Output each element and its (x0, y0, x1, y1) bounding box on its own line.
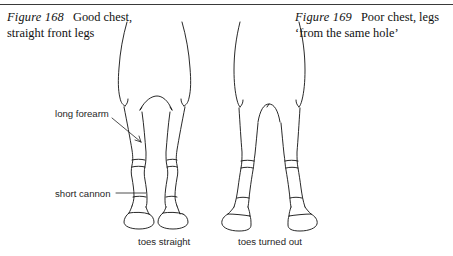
fig169-right-leg-inner-edge (281, 123, 291, 207)
fig168-left-elbow-notch (125, 99, 128, 106)
fig168-right-leg-outer-edge (175, 107, 185, 206)
fig168-right-knee-mark-a (167, 159, 177, 160)
fig169-left-pastern-outer (228, 207, 234, 214)
fig168-right-hoof-wall (158, 213, 188, 229)
fig168-left-hoof-wall (124, 213, 154, 229)
fig169-chest-underline (258, 104, 280, 122)
fig168-chest-underline (140, 96, 172, 110)
fig169-left-elbow-notch (240, 100, 243, 107)
fig169-right-leg-outer-edge (297, 108, 305, 207)
fig168-left-knee-mark-a (132, 159, 145, 160)
fig169-right-elbow-notch (296, 100, 299, 107)
fig168-right-fetlock-mark (166, 196, 177, 197)
fig168-right-elbow-notch (181, 99, 184, 106)
annotation-leader-lines (112, 118, 146, 193)
figure-plate: Figure 168Good chest, straight front leg… (0, 0, 453, 256)
fig169-right-knee-mark-b (286, 167, 298, 168)
fig168-right-shoulder-outline (182, 22, 191, 106)
fig169-left-hoof-wall (222, 214, 251, 231)
horse-forelegs-illustrations (0, 0, 453, 256)
fig168-left-leg-outer-edge (124, 107, 134, 206)
fig169-left-knee-mark-b (241, 167, 253, 168)
fig169-left-hoof-coronet-band (228, 214, 250, 216)
fig169-left-leg-inner-edge (248, 123, 258, 207)
fig169-right-hoof-wall (288, 214, 317, 231)
fig169-left-pastern-inner (248, 207, 250, 216)
fig169-right-fetlock-mark (290, 197, 302, 198)
fig168-left-fetlock-mark (133, 196, 146, 197)
fig169-right-pastern-inner (289, 207, 291, 216)
fig169-left-leg-outer-edge (234, 108, 242, 207)
fig168-right-pastern-line-inner (163, 207, 166, 213)
fig168-left-knee-mark-b (132, 166, 145, 167)
fig168-right-knee-mark-b (167, 166, 177, 167)
fig168-left-pastern-line-outer (129, 206, 132, 213)
fig169-right-knee-mark-a (285, 160, 298, 161)
fig169-left-shoulder-outline (234, 22, 240, 107)
fig169-left-fetlock-mark (237, 197, 249, 198)
fig169-left-knee-mark-a (241, 160, 254, 161)
fig169-right-pastern-outer (305, 207, 311, 214)
fig169-right-hoof-coronet-band (289, 214, 311, 216)
fig168-left-shoulder-outline (118, 22, 127, 106)
figure-169-drawing (222, 22, 317, 231)
fig169-right-shoulder-outline (299, 22, 305, 107)
figure-168-drawing (118, 22, 190, 229)
fig168-left-hoof-coronet-band (129, 212, 149, 214)
